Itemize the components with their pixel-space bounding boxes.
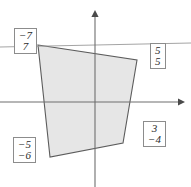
- vector-column: 3 −4: [147, 123, 162, 145]
- vector-entry-2: −6: [17, 150, 32, 161]
- vector-label-bottom-right: 3 −4: [143, 121, 166, 147]
- vector-entry-2: 5: [154, 56, 162, 67]
- vector-column: −7 7: [18, 30, 33, 52]
- vector-entry-2: −4: [147, 134, 162, 145]
- vector-column: 5 5: [154, 45, 162, 67]
- y-axis-arrowhead: [91, 10, 98, 17]
- vector-entry-2: 7: [22, 41, 30, 52]
- vector-column: −5 −6: [17, 139, 32, 161]
- vector-diagram-figure: −7 7 5 5 3 −4 −5 −6: [0, 0, 191, 187]
- shaded-quadrilateral: [38, 45, 137, 157]
- x-axis-arrowhead: [178, 98, 185, 105]
- vector-label-bottom-left: −5 −6: [13, 137, 36, 163]
- vector-label-right: 5 5: [150, 43, 166, 69]
- vector-label-top-left: −7 7: [14, 28, 37, 54]
